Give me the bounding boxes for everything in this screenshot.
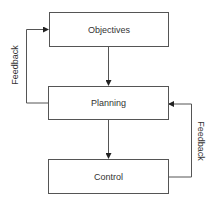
node-planning-label: Planning xyxy=(91,98,126,108)
node-control-label: Control xyxy=(94,172,123,182)
node-objectives: Objectives xyxy=(49,12,169,47)
node-control: Control xyxy=(48,159,169,194)
feedback-label-right: Feedback xyxy=(196,121,206,161)
feedback-label-left: Feedback xyxy=(10,45,20,85)
node-planning: Planning xyxy=(48,86,169,120)
feedback-loop-left xyxy=(27,30,49,104)
node-objectives-label: Objectives xyxy=(88,25,130,35)
feedback-loop-right xyxy=(169,104,192,177)
